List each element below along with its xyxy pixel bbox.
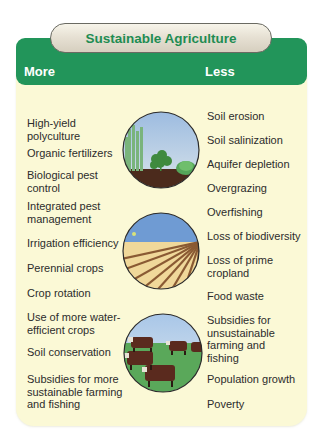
diagram-title: Sustainable Agriculture bbox=[50, 23, 272, 53]
grazing-cattle-illustration bbox=[123, 313, 201, 391]
less-item: Subsidies for unsustainable farming and … bbox=[207, 314, 275, 364]
less-item: Overgrazing bbox=[207, 182, 267, 195]
more-item: Integrated pest management bbox=[27, 200, 100, 225]
more-item: Use of more water- efficient crops bbox=[27, 311, 121, 336]
more-item: Irrigation efficiency bbox=[27, 237, 119, 250]
less-item: Loss of prime cropland bbox=[207, 254, 273, 279]
less-item: Overfishing bbox=[207, 206, 263, 219]
more-item: Crop rotation bbox=[27, 287, 91, 300]
more-item: Biological pest control bbox=[27, 169, 98, 194]
less-item: Poverty bbox=[207, 398, 244, 411]
less-item: Soil salinization bbox=[207, 134, 283, 147]
less-item: Food waste bbox=[207, 290, 264, 303]
less-item: Soil erosion bbox=[207, 110, 264, 123]
more-item: High-yield polyculture bbox=[27, 117, 80, 142]
polyculture-plants-illustration bbox=[122, 111, 200, 189]
more-item: Perennial crops bbox=[27, 262, 103, 275]
more-item: Organic fertilizers bbox=[27, 147, 113, 160]
more-item: Soil conservation bbox=[27, 346, 111, 359]
less-item: Aquifer depletion bbox=[207, 158, 290, 171]
more-item: Subsidies for more sustainable farming a… bbox=[27, 373, 122, 411]
less-item: Population growth bbox=[207, 373, 295, 386]
plowed-field-illustration bbox=[122, 212, 200, 290]
column-heading-more: More bbox=[24, 64, 55, 79]
less-item: Loss of biodiversity bbox=[207, 230, 301, 243]
column-heading-less: Less bbox=[205, 64, 235, 79]
